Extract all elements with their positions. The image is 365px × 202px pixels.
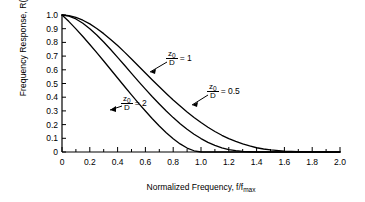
fraction-numerator: z0 <box>207 83 219 91</box>
fraction-denominator: D <box>207 91 219 100</box>
fraction-zd-2: z0 D <box>121 95 133 112</box>
numerator-subscript: 0 <box>172 52 176 59</box>
annotation-equals-zd-2: = 2 <box>133 99 147 108</box>
numerator-subscript: 0 <box>127 97 131 104</box>
fraction-denominator: D <box>166 58 178 67</box>
annotation-equals-zd-05: = 0.5 <box>219 87 240 96</box>
annotation-zd-1: z0 D = 1 <box>166 50 192 67</box>
leader-line-zd05 <box>192 95 208 105</box>
curve-z0-d-0-5 <box>62 15 340 152</box>
fraction-denominator: D <box>121 103 133 112</box>
leader-arrow-zd2 <box>110 106 116 112</box>
axes <box>62 15 340 152</box>
frequency-response-chart: Frequency Response, R(ω) 1.0 0.9 0.8 0.7… <box>0 0 365 202</box>
annotation-zd-05: z0 D = 0.5 <box>207 83 240 100</box>
fraction-numerator: z0 <box>121 95 133 103</box>
curve-z0-d-1 <box>62 15 340 152</box>
numerator-subscript: 0 <box>213 85 217 92</box>
fraction-zd-05: z0 D <box>207 83 219 100</box>
fraction-zd-1: z0 D <box>166 50 178 67</box>
leader-line-zd1 <box>150 62 167 72</box>
annotation-equals-zd-1: = 1 <box>178 54 192 63</box>
plot-area <box>0 0 365 202</box>
data-curves <box>62 15 340 152</box>
fraction-numerator: z0 <box>166 50 178 58</box>
annotation-zd-2: z0 D = 2 <box>121 95 147 112</box>
curve-z0-d-2 <box>62 15 340 152</box>
